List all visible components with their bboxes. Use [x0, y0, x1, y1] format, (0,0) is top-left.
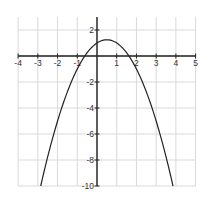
y-tick-label: -8 [86, 155, 94, 165]
grid [18, 17, 195, 186]
x-tick-label: 4 [174, 58, 179, 68]
y-tick-label: -10 [82, 181, 95, 191]
x-tick-label: 1 [114, 58, 119, 68]
x-tick-label: 5 [193, 58, 198, 68]
parabola-chart: -4-3-2-112345 2-2-4-6-8-10 [0, 0, 204, 199]
x-tick-label: 3 [154, 58, 159, 68]
y-tick-label: 2 [89, 25, 94, 35]
x-tick-label: -2 [54, 58, 62, 68]
y-tick-label: -2 [86, 77, 94, 87]
x-tick-label: -4 [14, 58, 22, 68]
y-tick-label: -4 [86, 103, 94, 113]
x-tick-label: -3 [34, 58, 42, 68]
y-tick-label: -6 [86, 129, 94, 139]
axes [18, 17, 195, 186]
